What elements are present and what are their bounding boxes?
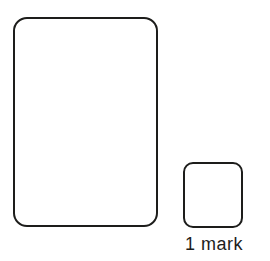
unit-square-label: 1 mark — [171, 233, 257, 255]
diagram-canvas: 1 mark — [0, 0, 270, 261]
unit-square-shape — [183, 162, 243, 228]
large-rectangle-shape — [13, 17, 158, 227]
